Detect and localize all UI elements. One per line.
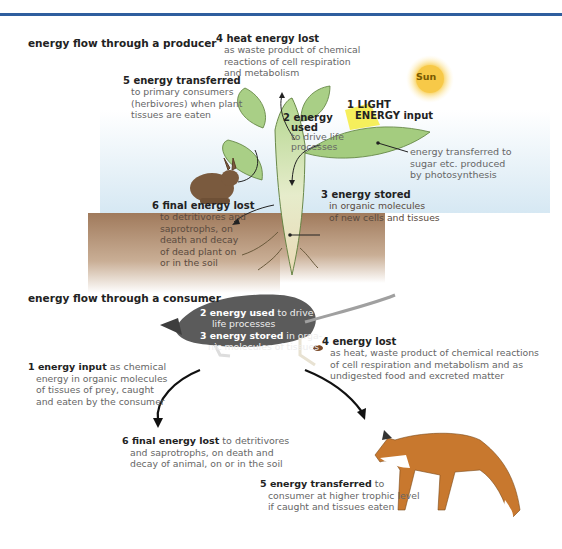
label-final-energy-lost-producer: 6 final energy lost to detritivores and … [152, 200, 254, 269]
label-energy-stored-producer: 3 energy stored in organic molecules of … [321, 189, 440, 223]
label-energy-input-consumer: 1 energy input as chemical energy in org… [28, 361, 167, 407]
label-energy-used-consumer: 2 energy used to drive life processes [200, 307, 313, 329]
label-energy-used-producer: 2 energy used to drive life processes [283, 113, 344, 151]
label-energy-transferred-consumer: 5 energy transferred to consumer at high… [260, 478, 420, 513]
label-light-energy-input: 1 LIGHT ENERGY input [347, 99, 433, 121]
label-photosynthesis: energy transferred to sugar etc. produce… [410, 146, 512, 181]
label-energy-stored-consumer: 3 energy stored in orga- nic molecules o… [200, 330, 322, 352]
label-energy-transferred-producer: 5 energy transferred to primary consumer… [123, 75, 242, 121]
sun-label: Sun [416, 71, 436, 82]
label-heat-energy-lost: 4 heat energy lost as waste product of c… [216, 33, 360, 79]
consumer-title: energy flow through a consumer [28, 292, 221, 304]
label-final-energy-lost-consumer: 6 final energy lost to detritivores and … [122, 435, 289, 470]
label-energy-lost-consumer: 4 energy lost as heat, waste product of … [322, 336, 539, 382]
producer-title: energy flow through a producer [28, 37, 216, 49]
